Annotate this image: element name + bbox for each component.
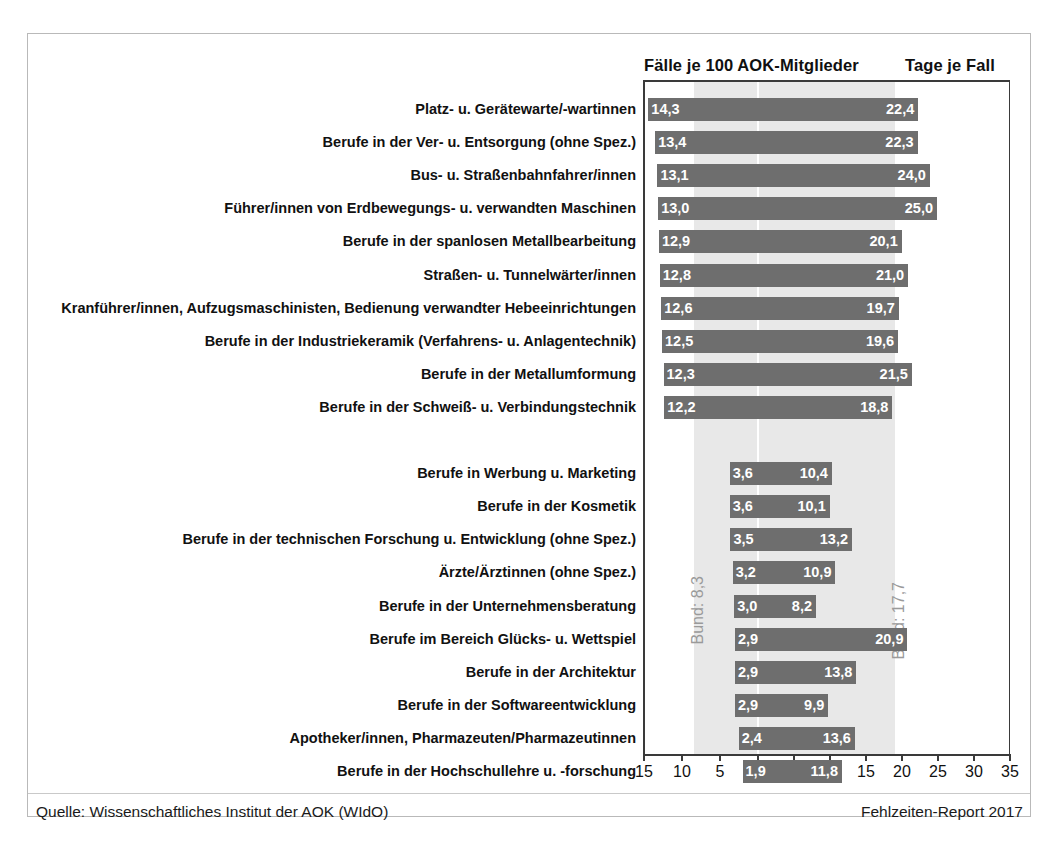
chart-row: 3,610,4 (643, 462, 1010, 485)
bar-value-right: 19,6 (853, 330, 894, 353)
chart-row: 2,413,6 (643, 727, 1010, 750)
bar-value-left: 2,9 (738, 694, 758, 717)
axis-tick (937, 754, 939, 761)
bar-value-right: 13,2 (807, 528, 848, 551)
axis-tick (901, 754, 903, 761)
bar-value-left: 1,9 (746, 760, 766, 783)
bar-value-left: 3,6 (733, 462, 753, 485)
category-label: Berufe in der Ver- u. Entsorgung (ohne S… (323, 131, 636, 154)
axis-tick (719, 754, 721, 761)
footer-rule (28, 793, 1030, 794)
chart-row: 12,821,0 (643, 264, 1010, 287)
bar-value-left: 2,4 (742, 727, 762, 750)
bar-value-right: 10,9 (790, 561, 831, 584)
category-label: Berufe in der technischen Forschung u. E… (182, 528, 636, 551)
bar-value-right: 24,0 (885, 164, 926, 187)
bar-value-left: 13,1 (660, 164, 688, 187)
category-label: Kranführer/innen, Aufzugsmaschinisten, B… (61, 297, 636, 320)
bar-value-right: 9,9 (783, 694, 824, 717)
category-label: Berufe im Bereich Glücks- u. Wettspiel (370, 628, 636, 651)
bar-value-left: 3,6 (733, 495, 753, 518)
chart-row: 14,322,4 (643, 98, 1010, 121)
bar-value-left: 2,9 (738, 628, 758, 651)
category-label: Berufe in der Hochschullehre u. -forschu… (337, 760, 636, 783)
axis-tick (865, 754, 867, 761)
source-note: Quelle: Wissenschaftliches Institut der … (36, 803, 388, 821)
chart-row: 12,519,6 (643, 330, 1010, 353)
chart-row: 13,422,3 (643, 131, 1010, 154)
bar-value-left: 12,8 (663, 264, 691, 287)
x-axis-line (643, 754, 1010, 756)
bar-value-left: 12,9 (662, 230, 690, 253)
category-label: Bus- u. Straßenbahnfahrer/innen (410, 164, 636, 187)
bar-value-left: 2,9 (738, 661, 758, 684)
bar-value-left: 13,0 (661, 197, 689, 220)
bar-value-right: 13,8 (811, 661, 852, 684)
plot-area: Bund: 8,3 Bund: 17,7 14,322,413,422,313,… (643, 82, 1010, 754)
bar-value-right: 18,8 (847, 396, 888, 419)
bar-value-left: 12,3 (667, 363, 695, 386)
chart-row: 12,920,1 (643, 230, 1010, 253)
bar-value-right: 8,2 (771, 595, 812, 618)
category-label: Straßen- u. Tunnelwärter/innen (424, 264, 636, 287)
bar-value-right: 11,8 (797, 760, 838, 783)
bar-value-right: 13,6 (810, 727, 851, 750)
bar-value-right: 21,0 (863, 264, 904, 287)
chart-row: 2,99,9 (643, 694, 1010, 717)
chart-row: 2,913,8 (643, 661, 1010, 684)
axis-tick (973, 754, 975, 761)
bar-value-right: 20,1 (857, 230, 898, 253)
axis-tick-label: 25 (929, 763, 947, 781)
bar-value-right: 25,0 (892, 197, 933, 220)
bar-value-left: 12,6 (664, 297, 692, 320)
bar-value-left: 3,2 (736, 561, 756, 584)
bar-value-right: 22,3 (873, 131, 914, 154)
category-label: Berufe in der Softwareentwicklung (398, 694, 637, 717)
chart-row: 12,619,7 (643, 297, 1010, 320)
category-label: Berufe in der Schweiß- u. Verbindungstec… (319, 396, 636, 419)
bar-value-left: 12,5 (665, 330, 693, 353)
bar-value-left: 13,4 (658, 131, 686, 154)
chart-row: 3,513,2 (643, 528, 1010, 551)
axis-tick-label: 10 (673, 763, 691, 781)
axis-tick-label: 5 (716, 763, 725, 781)
axis-tick-label: 35 (1001, 763, 1019, 781)
bar-value-right: 10,1 (785, 495, 826, 518)
category-label: Führer/innen von Erdbewegungs- u. verwan… (224, 197, 636, 220)
bar-value-left: 3,5 (733, 528, 753, 551)
category-label: Berufe in der Kosmetik (477, 495, 636, 518)
chart-row: 13,025,0 (643, 197, 1010, 220)
axis-tick (681, 754, 683, 761)
bar-value-right: 10,4 (787, 462, 828, 485)
bar-value-left: 3,0 (737, 595, 757, 618)
category-label: Apotheker/innen, Pharmazeuten/Pharmazeut… (290, 727, 636, 750)
category-label: Berufe in der Industriekeramik (Verfahre… (205, 330, 636, 353)
right-axis-title: Tage je Fall (905, 56, 995, 75)
category-label: Berufe in Werbung u. Marketing (417, 462, 636, 485)
bar-value-left: 12,2 (667, 396, 695, 419)
chart-row: 3,610,1 (643, 495, 1010, 518)
bund-left-label: Bund: 8,3 (689, 576, 707, 645)
category-label: Berufe in der spanlosen Metallbearbeitun… (343, 230, 636, 253)
axis-tick-label: 15 (635, 763, 653, 781)
category-label: Berufe in der Architektur (466, 661, 636, 684)
axis-tick-label: 30 (965, 763, 983, 781)
category-label: Ärzte/Ärztinnen (ohne Spez.) (439, 561, 636, 584)
category-label: Platz- u. Gerätewarte/-wartinnen (415, 98, 636, 121)
bar-value-right: 20,9 (862, 628, 903, 651)
axis-tick-label: 20 (893, 763, 911, 781)
chart-row: 12,321,5 (643, 363, 1010, 386)
report-note: Fehlzeiten-Report 2017 (861, 803, 1023, 821)
axis-tick-label: 15 (857, 763, 875, 781)
left-axis-title: Fälle je 100 AOK-Mitglieder (644, 56, 859, 75)
category-label: Berufe in der Metallumformung (421, 363, 636, 386)
chart-row: 13,124,0 (643, 164, 1010, 187)
category-label: Berufe in der Unternehmensberatung (379, 595, 636, 618)
bar-value-right: 19,7 (854, 297, 895, 320)
bar-value-left: 14,3 (651, 98, 679, 121)
chart-row: 12,218,8 (643, 396, 1010, 419)
bar-value-right: 21,5 (867, 363, 908, 386)
bar-value-right: 22,4 (873, 98, 914, 121)
axis-tick (1009, 754, 1011, 761)
axis-tick (643, 754, 645, 761)
